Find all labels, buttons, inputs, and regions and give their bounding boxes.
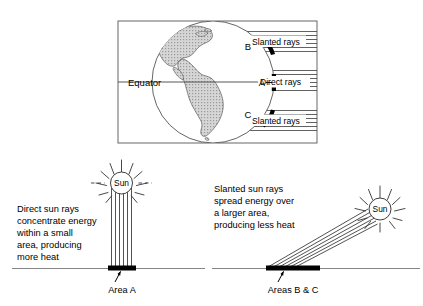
area-a-patch (108, 266, 136, 271)
direct-caption-line-5: more heat (17, 252, 59, 262)
insolation-diagram: Slanted rays Direct rays Slanted rays B … (0, 0, 423, 306)
slanted-caption-line-1: Slanted sun rays (214, 184, 284, 194)
direct-caption-line-2: concentrate energy (17, 216, 97, 226)
ray-band-label-slanted-top: Slanted rays (252, 37, 300, 47)
direct-rays-caption: Direct sun rays concentrate energy withi… (16, 204, 97, 262)
slanted-caption-line-2: spread energy over (214, 196, 294, 206)
slanted-rays-caption: Slanted sun rays spread energy over a la… (214, 184, 295, 230)
slanted-caption-line-4: producing less heat (214, 220, 295, 230)
slanted-ray-bundle (268, 209, 378, 267)
diagram-canvas: Slanted rays Direct rays Slanted rays B … (0, 0, 423, 306)
slanted-rays-panel: Sun Areas B & C Slanted sun rays spread … (212, 184, 420, 295)
direct-ray-bundle (112, 185, 132, 267)
area-a-label: Area A (108, 285, 136, 295)
sun-label-left: Sun (114, 178, 129, 188)
globe-panel: Slanted rays Direct rays Slanted rays B … (118, 21, 317, 143)
areas-bc-label: Areas B & C (268, 285, 319, 295)
direct-rays-panel: Sun Area A Direct sun rays concentrate e… (12, 160, 205, 295)
sun-label-right: Sun (373, 204, 388, 214)
globe-point-label-b: B (245, 41, 251, 52)
equator-label: Equator (128, 77, 161, 88)
areas-bc-patch (266, 266, 320, 271)
direct-caption-line-4: area, producing (17, 240, 82, 250)
ray-band-label-direct: Direct rays (260, 77, 301, 87)
direct-caption-line-3: within a small (16, 228, 73, 238)
area-a-pointer (115, 272, 121, 283)
slanted-caption-line-3: a larger area, (214, 208, 269, 218)
ray-band-label-slanted-bottom: Slanted rays (252, 116, 300, 126)
globe-point-label-a: A (259, 77, 266, 88)
areas-bc-pointer (278, 272, 284, 283)
globe-point-label-c: C (245, 109, 252, 120)
direct-caption-line-1: Direct sun rays (17, 204, 79, 214)
